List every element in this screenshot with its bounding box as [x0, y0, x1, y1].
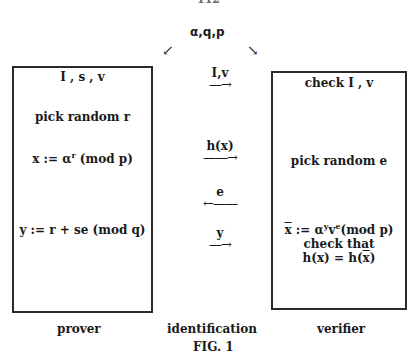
message-response: y—→: [200, 227, 240, 250]
arrow-right-icon: —→: [200, 240, 240, 250]
verifier-line-equality: h(x) = h(x): [273, 251, 405, 265]
verifier-line-check-that: check that: [273, 237, 405, 251]
arrow-right-icon: ——→: [195, 153, 245, 163]
prover-line-pick: pick random r: [14, 110, 151, 124]
prover-line-response: y := r + se (mod q): [14, 223, 151, 237]
verifier-line-check: check I , v: [273, 76, 405, 90]
caption-identification: identification: [167, 322, 257, 336]
message-commitment: I,v—→: [200, 67, 240, 90]
verifier-box: check I , v pick random e x := αyve(mod …: [271, 71, 407, 310]
public-parameters: α,q,p: [190, 25, 225, 39]
caption-verifier: verifier: [317, 322, 365, 336]
arrow-left-icon: ←——: [200, 199, 240, 209]
arrow-right-icon: —→: [200, 80, 240, 90]
message-challenge: e←——: [200, 186, 240, 209]
prover-line-keys: I , s , v: [14, 70, 151, 84]
verifier-line-recompute: x := αyve(mod p): [273, 223, 405, 237]
arrow-down-right-icon: ↘: [247, 42, 259, 58]
figure-label: FIG. 1: [193, 340, 234, 354]
prover-line-commit: x := αr (mod p): [14, 152, 151, 166]
prover-box: I , s , v pick random r x := αr (mod p) …: [12, 66, 153, 313]
arrow-down-left-icon: ↙: [162, 42, 174, 58]
verifier-line-pick: pick random e: [273, 154, 405, 168]
caption-prover: prover: [57, 322, 101, 336]
page-number: 112: [197, 0, 220, 6]
message-hash: h(x)——→: [195, 140, 245, 163]
